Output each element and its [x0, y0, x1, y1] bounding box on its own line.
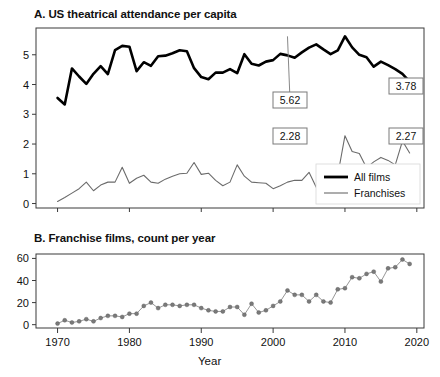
panel-a-callout: 2.27	[389, 128, 423, 144]
panel-a-ytick: 5	[23, 49, 29, 61]
panel-b-data-point	[285, 288, 289, 292]
panel-b-data-point	[372, 270, 376, 274]
panel-a-legend-label: All films	[354, 171, 390, 183]
panel-b-data-point	[357, 276, 361, 280]
panel-b-data-point	[120, 315, 124, 319]
panel-b-data-point	[379, 280, 383, 284]
panel-b-data-point	[386, 266, 390, 270]
panel-b-ytick: 20	[17, 297, 29, 309]
panel-b-chart: 0204060197019801990200020102020	[0, 244, 440, 354]
panel-b-data-point	[271, 304, 275, 308]
panel-b-data-point	[221, 309, 225, 313]
panel-b-data-point	[113, 314, 117, 318]
panel-b-data-point	[235, 305, 239, 309]
panel-b-data-point	[135, 312, 139, 316]
panel-b-data-point	[350, 275, 354, 279]
panel-b-data-point	[206, 308, 210, 312]
panel-b-data-point	[178, 304, 182, 308]
panel-b-data-point	[70, 320, 74, 324]
panel-b-data-point	[264, 308, 268, 312]
x-axis-title: Year	[198, 355, 221, 367]
panel-b-xtick: 2010	[333, 336, 357, 348]
panel-a-legend: All filmsFranchises	[316, 164, 420, 204]
panel-b-data-point	[393, 265, 397, 269]
panel-b-xtick: 1990	[189, 336, 213, 348]
panel-b-data-point	[99, 316, 103, 320]
panel-b-data-point	[228, 305, 232, 309]
panel-a-svg: 0123455.623.782.282.27All filmsFranchise…	[0, 22, 440, 227]
panel-b-data-point	[149, 301, 153, 305]
panel-b-data-point	[84, 317, 88, 321]
panel-b-ytick: 60	[17, 252, 29, 264]
panel-b-data-point	[106, 314, 110, 318]
panel-b-xtick: 1970	[45, 336, 69, 348]
panel-b-data-point	[300, 293, 304, 297]
panel-a-ytick: 2	[23, 138, 29, 150]
panel-b-data-point	[336, 287, 340, 291]
panel-a-callout-label: 2.28	[280, 130, 301, 142]
panel-b-data-point	[171, 303, 175, 307]
panel-b-data-point	[329, 301, 333, 305]
panel-b-data-point	[63, 318, 67, 322]
panel-b-ytick: 40	[17, 275, 29, 287]
panel-b-data-point	[163, 303, 167, 307]
panel-a-series-all-films	[58, 36, 410, 104]
panel-b-data-point	[257, 311, 261, 315]
panel-a-title: A. US theatrical attendance per capita	[34, 8, 237, 20]
panel-b-xtick: 2020	[405, 336, 429, 348]
figure-root: A. US theatrical attendance per capita 0…	[0, 0, 440, 377]
panel-b-data-point	[321, 299, 325, 303]
panel-a-callout: 3.78	[389, 78, 423, 94]
panel-a-callout: 2.28	[273, 128, 307, 144]
panel-b-data-point	[142, 304, 146, 308]
panel-a-ytick: 1	[23, 168, 29, 180]
panel-b-series-line	[58, 260, 410, 324]
panel-a-chart: 0123455.623.782.282.27All filmsFranchise…	[0, 22, 440, 227]
panel-a-legend-label: Franchises	[354, 187, 405, 199]
panel-b-data-point	[127, 312, 131, 316]
panel-b-data-point	[199, 306, 203, 310]
panel-b-title: B. Franchise films, count per year	[34, 232, 215, 244]
panel-b-data-point	[314, 293, 318, 297]
panel-b-data-point	[250, 302, 254, 306]
panel-b-data-point	[156, 306, 160, 310]
panel-b-data-point	[192, 303, 196, 307]
panel-b-data-point	[185, 303, 189, 307]
panel-b-data-point	[77, 319, 81, 323]
panel-b-data-point	[214, 309, 218, 313]
panel-a-callout-label: 3.78	[396, 80, 417, 92]
panel-b-xtick: 2000	[261, 336, 285, 348]
panel-b-data-point	[343, 286, 347, 290]
panel-b-data-point	[408, 262, 412, 266]
panel-b-ytick: 0	[23, 319, 29, 331]
panel-b-svg: 0204060197019801990200020102020	[0, 244, 440, 354]
panel-b-data-point	[242, 313, 246, 317]
panel-b-xtick: 1980	[117, 336, 141, 348]
panel-a-ytick: 4	[23, 79, 29, 91]
panel-b-data-point	[307, 299, 311, 303]
panel-b-data-point	[56, 322, 60, 326]
panel-a-callout: 5.62	[273, 36, 307, 108]
panel-a-callout-label: 2.27	[396, 130, 417, 142]
panel-a-ytick: 0	[23, 198, 29, 210]
panel-b-data-point	[365, 272, 369, 276]
panel-a-callout-label: 5.62	[280, 94, 301, 106]
panel-b-data-point	[293, 293, 297, 297]
panel-a-ytick: 3	[23, 108, 29, 120]
panel-b-data-point	[278, 299, 282, 303]
panel-b-data-point	[91, 319, 95, 323]
panel-b-data-point	[400, 258, 404, 262]
